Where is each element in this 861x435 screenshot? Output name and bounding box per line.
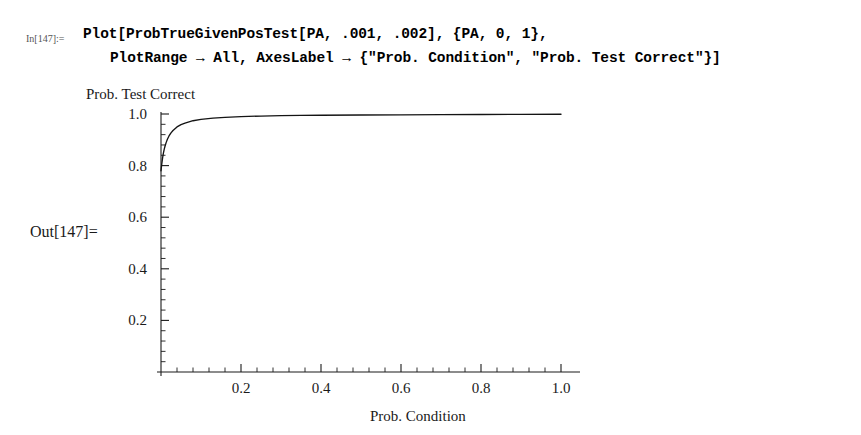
y-axis-label: Prob. Test Correct <box>86 86 196 102</box>
output-cell-label: Out[147]= <box>30 223 98 241</box>
notebook-input-cell[interactable]: In[147]:= Plot[ProbTrueGivenPosTest[PA, … <box>0 12 861 72</box>
x-tick-label: 0.6 <box>392 380 411 396</box>
y-tick-label: 0.2 <box>128 312 147 328</box>
y-axis-minor-ticks <box>161 124 166 361</box>
y-axis-major-ticks <box>161 114 169 320</box>
code-line-1[interactable]: Plot[ProbTrueGivenPosTest[PA, .001, .002… <box>83 26 547 42</box>
x-axis-major-ticks <box>241 364 561 372</box>
y-tick-label: 0.8 <box>128 158 147 174</box>
x-axis-label: Prob. Condition <box>370 408 466 424</box>
y-tick-label: 0.4 <box>128 261 147 277</box>
y-tick-label: 1.0 <box>128 106 147 122</box>
y-tick-label: 0.6 <box>128 209 147 225</box>
input-cell-label: In[147]:= <box>26 33 64 44</box>
x-tick-label: 0.4 <box>312 380 331 396</box>
x-axis-tick-labels: 0.20.40.60.81.0 <box>232 380 571 396</box>
plot-curve-series-0 <box>161 114 561 170</box>
x-axis-minor-ticks <box>177 368 545 373</box>
x-tick-label: 0.8 <box>472 380 491 396</box>
code-line-2[interactable]: PlotRange → All, AxesLabel → {"Prob. Con… <box>110 50 721 66</box>
y-axis-tick-labels: 0.20.40.60.81.0 <box>128 106 147 328</box>
x-tick-label: 0.2 <box>232 380 251 396</box>
x-tick-label: 1.0 <box>552 380 571 396</box>
